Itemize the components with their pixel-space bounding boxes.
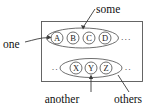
caption-one: one	[3, 38, 20, 50]
node-label-B: B	[70, 33, 76, 43]
arrow-head-some	[81, 25, 86, 30]
node-label-A: A	[54, 33, 61, 43]
node-label-Y: Y	[88, 63, 94, 73]
leader-line-others	[118, 75, 129, 92]
node-label-C: C	[86, 33, 92, 43]
node-A: A	[51, 32, 63, 44]
ellipsis-some-trailing: ···	[121, 34, 132, 44]
ellipsis-others-trailing: ··	[125, 64, 132, 74]
node-X: X	[70, 62, 82, 74]
node-label-D: D	[102, 33, 108, 43]
leader-line-some	[83, 9, 95, 28]
caption-some: some	[96, 3, 120, 15]
set-membership-diagram: A B C D ··· X Y Z ·· ··	[0, 0, 161, 111]
node-C: C	[83, 32, 95, 44]
arrow-head-another	[89, 74, 93, 79]
diagram-canvas: A B C D ··· X Y Z ·· ··	[0, 0, 161, 111]
node-label-Z: Z	[103, 63, 108, 73]
node-label-X: X	[73, 63, 79, 73]
node-Y: Y	[85, 62, 97, 74]
caption-another: another	[45, 93, 80, 105]
ellipsis-others-leading: ··	[52, 64, 59, 74]
caption-others: others	[114, 93, 143, 105]
node-Z: Z	[100, 62, 112, 74]
node-B: B	[67, 32, 79, 44]
leader-line-one	[25, 38, 49, 42]
node-D: D	[99, 32, 111, 44]
